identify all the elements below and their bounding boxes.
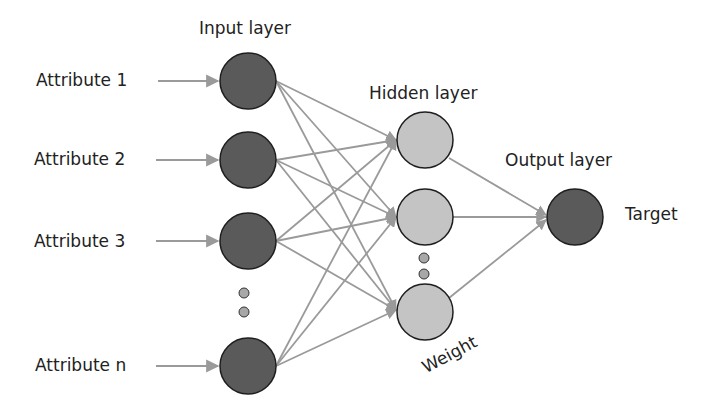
input-layer-nodes bbox=[220, 53, 276, 394]
attribute-arrows bbox=[156, 81, 218, 366]
attribute-label-1: Attribute 1 bbox=[36, 70, 127, 90]
input-node-n bbox=[220, 338, 276, 394]
attribute-label-n: Attribute n bbox=[35, 355, 126, 375]
hidden-node-1 bbox=[397, 112, 453, 168]
neural-network-diagram bbox=[0, 0, 721, 413]
input-hidden-edges bbox=[276, 81, 396, 366]
hidden-output-edges bbox=[449, 158, 546, 298]
target-label: Target bbox=[625, 204, 678, 224]
output-layer-title: Output layer bbox=[505, 150, 612, 170]
attribute-label-3: Attribute 3 bbox=[34, 231, 125, 251]
hidden-ellipsis-icon bbox=[419, 253, 429, 279]
attribute-label-2: Attribute 2 bbox=[34, 149, 125, 169]
input-layer-title: Input layer bbox=[199, 18, 291, 38]
hidden-layer-title: Hidden layer bbox=[369, 83, 477, 103]
input-node-3 bbox=[220, 213, 276, 269]
input-node-1 bbox=[220, 53, 276, 109]
hidden-layer-nodes bbox=[397, 112, 453, 340]
hidden-node-2 bbox=[397, 189, 453, 245]
input-node-2 bbox=[220, 132, 276, 188]
output-node bbox=[547, 189, 603, 245]
hidden-node-m bbox=[397, 284, 453, 340]
input-ellipsis-icon bbox=[239, 288, 249, 317]
